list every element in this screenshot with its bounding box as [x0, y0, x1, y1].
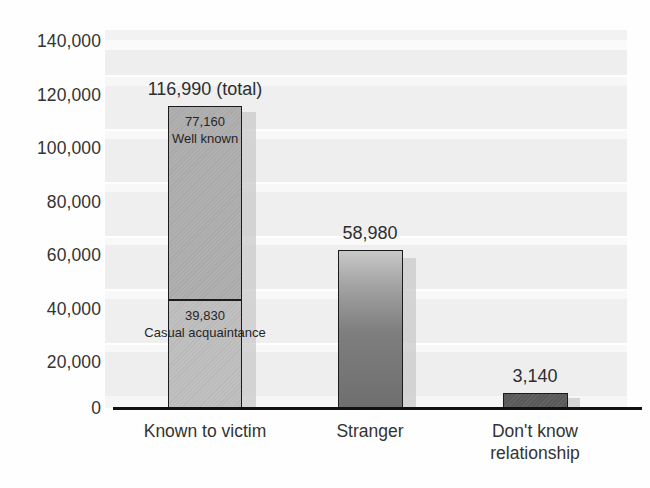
x-tick-label-dont-know-line2: relationship	[455, 442, 615, 464]
y-tick-label-0: 0	[5, 400, 101, 418]
y-tick-label-80000: 80,000	[5, 194, 101, 212]
x-tick-label-dont-know-line1: Don't know	[455, 420, 615, 442]
segment-name-well-known: Well known	[143, 131, 267, 147]
bar-value-label-dont-know: 3,140	[460, 367, 610, 386]
y-tick-label-20000: 20,000	[5, 354, 101, 372]
bar-stranger[interactable]	[338, 250, 403, 408]
y-tick-label-40000: 40,000	[5, 301, 101, 319]
segment-name-casual-acquaintance: Casual acquaintance	[108, 325, 302, 341]
x-tick-label-known-to-victim: Known to victim	[115, 420, 295, 442]
x-tick-label-known-to-victim-line1: Known to victim	[115, 420, 295, 442]
y-axis: 140,000 120,000 100,000 80,000 60,000 40…	[0, 0, 101, 488]
y-tick-label-60000: 60,000	[5, 247, 101, 265]
segment-value-well-known: 77,160	[168, 114, 242, 130]
gridline-120000	[105, 75, 627, 77]
x-tick-label-stranger: Stranger	[300, 420, 440, 442]
y-tick-label-140000: 140,000	[5, 33, 101, 51]
cropped-caption: ­	[33, 470, 38, 487]
x-tick-label-stranger-line1: Stranger	[300, 420, 440, 442]
bar-known-to-victim-shadow	[242, 112, 256, 408]
bar-dont-know-relationship[interactable]	[503, 393, 568, 408]
bar-value-label-stranger: 58,980	[295, 224, 445, 243]
y-tick-label-120000: 120,000	[5, 87, 101, 105]
x-tick-label-dont-know-relationship: Don't know relationship	[455, 420, 615, 465]
y-tick-label-100000: 100,000	[5, 140, 101, 158]
segment-value-casual-acquaintance: 39,830	[168, 308, 242, 324]
bar-total-label-known-to-victim: 116,990 (total)	[110, 80, 300, 99]
x-axis-line	[113, 407, 642, 410]
bar-chart-figure: 140,000 120,000 100,000 80,000 60,000 40…	[0, 0, 650, 488]
bar-stranger-shadow	[403, 258, 416, 408]
